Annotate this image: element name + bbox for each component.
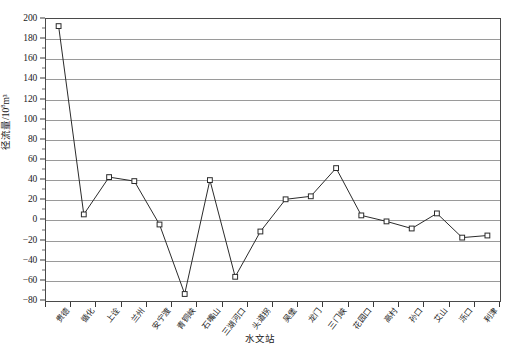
x-tick-label: 青铜峡 [174,305,198,331]
x-tick-label: 安宁渡 [148,305,172,331]
y-axis: 200180160140120100806040200−20−40−60−80 [0,18,45,302]
plot-area [45,18,501,302]
y-tick-label: −40 [23,255,37,265]
data-point-marker [107,175,112,180]
y-tick-label: 40 [28,174,37,184]
data-point-marker [132,179,137,184]
x-tick-label: 花园口 [350,305,374,331]
y-tick-label: −80 [23,295,37,305]
data-point-marker [81,212,86,217]
runoff-series [46,19,500,301]
data-point-marker [384,219,389,224]
x-tick-label: 三湖河口 [219,305,248,338]
data-point-marker [308,194,313,199]
data-point-marker [460,235,465,240]
x-tick-label: 孙口 [406,305,425,325]
x-axis-title: 水文站 [245,331,275,345]
y-tick-label: 120 [23,94,37,104]
y-tick-label: 200 [23,13,37,23]
y-tick-label: 100 [23,114,37,124]
data-point-marker [208,178,213,183]
x-tick-label: 艾山 [431,305,450,325]
data-point-marker [233,274,238,279]
x-tick-label: 上诠 [103,305,122,325]
x-tick-label: 利津 [481,305,500,325]
series-line [59,26,488,294]
y-tick-label: −20 [23,235,37,245]
data-point-marker [157,222,162,227]
x-tick-label: 贵德 [52,305,71,325]
data-point-marker [485,233,490,238]
x-axis-labels: 贵德循化上诠兰州安宁渡青铜峡石嘴山三湖河口头道拐吴堡龙门三门峡花园口高村孙口艾山… [45,305,501,355]
y-tick-label: 80 [28,134,37,144]
data-point-marker [409,226,414,231]
x-tick-label: 循化 [78,305,97,325]
data-point-marker [258,229,263,234]
y-tick-label: 160 [23,53,37,63]
data-point-marker [283,197,288,202]
x-tick-label: 龙门 [305,305,324,325]
y-tick-label: 140 [23,73,37,83]
runoff-line-chart: 径流量/108m³ 200180160140120100806040200−20… [0,0,516,362]
x-tick-label: 吴堡 [279,305,298,325]
data-point-marker [56,24,61,29]
y-tick-label: 180 [23,33,37,43]
data-point-marker [359,213,364,218]
data-point-marker [334,166,339,171]
x-tick-label: 兰州 [128,305,147,325]
data-point-marker [435,211,440,216]
x-tick-label: 高村 [380,305,399,325]
y-tick-label: 0 [32,214,37,224]
y-tick-label: 20 [28,194,37,204]
x-tick-label: 泺口 [456,305,475,325]
data-point-marker [182,292,187,297]
y-tick-label: 60 [28,154,37,164]
x-tick-label: 头道拐 [249,305,273,331]
y-tick-label: −60 [23,275,37,285]
x-tick-label: 三门峡 [325,305,349,331]
x-tick-label: 石嘴山 [199,305,223,331]
